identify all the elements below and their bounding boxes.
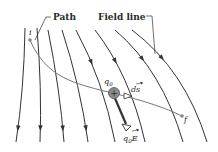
force-arrowhead-icon <box>122 124 131 131</box>
charge-sign: + <box>110 88 118 98</box>
displacement-label: ds <box>131 85 140 94</box>
field-direction-arrow-icon <box>88 59 94 66</box>
field-direction-arrow-icon <box>60 125 65 131</box>
field-line <box>132 30 207 142</box>
force-label: q0E <box>123 134 138 144</box>
field-direction-arrow-icon <box>38 125 43 131</box>
electric-field-diagram: + Path Field line i f q0 ds q0E <box>0 0 218 152</box>
force-vector-icon <box>132 130 138 131</box>
field-line <box>37 28 41 142</box>
field-line-label: Field line <box>98 12 146 22</box>
force-arrow <box>114 96 126 124</box>
field-direction-arrow-icon <box>112 57 119 64</box>
final-point-label: f <box>183 115 189 124</box>
path-label: Path <box>53 12 77 22</box>
field-line <box>16 28 25 142</box>
field-line <box>48 30 64 142</box>
charge-label: q0 <box>104 77 113 87</box>
initial-point-dot <box>28 38 32 42</box>
displacement-vector-icon <box>136 83 142 84</box>
initial-point-label: i <box>29 28 32 37</box>
